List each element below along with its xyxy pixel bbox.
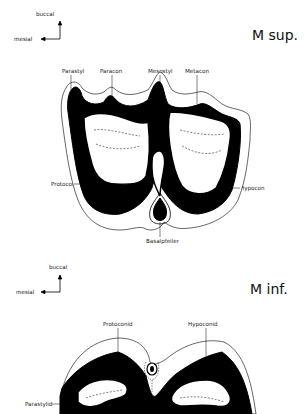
- lower-orientation-arrows: [41, 275, 62, 294]
- upper-molar-drawing: [61, 72, 250, 237]
- upper-orientation-arrows: [41, 21, 62, 41]
- lower-molar-drawing: [52, 328, 256, 414]
- molar-diagrams: [0, 0, 308, 414]
